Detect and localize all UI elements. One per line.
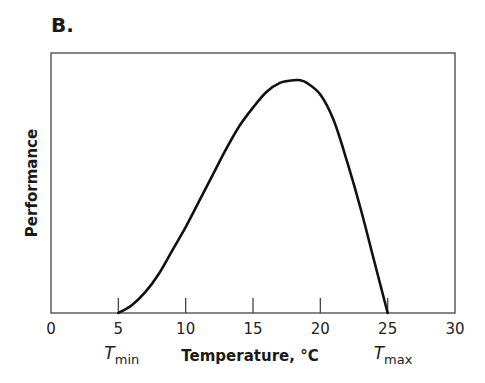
x-tick-label: 15: [243, 320, 262, 338]
y-axis-title: Performance: [23, 129, 41, 237]
chart-svg: 051015202530 TminTmax Temperature, °C Pe…: [0, 0, 485, 383]
plot-frame: [51, 53, 455, 313]
x-tick-label: 10: [176, 320, 195, 338]
x-tick-label: 0: [46, 320, 56, 338]
x-axis-title: Temperature, °C: [181, 347, 318, 365]
x-tick-label: 20: [311, 320, 330, 338]
x-tick-label: 30: [445, 320, 464, 338]
t-max-label: Tmax: [374, 343, 413, 367]
x-axis-tick-labels: 051015202530: [46, 320, 464, 338]
t-min-label: Tmin: [104, 343, 139, 367]
x-tick-label: 25: [378, 320, 397, 338]
x-tick-label: 5: [114, 320, 124, 338]
performance-curve: [118, 80, 387, 313]
x-axis-ticks: [118, 298, 387, 313]
